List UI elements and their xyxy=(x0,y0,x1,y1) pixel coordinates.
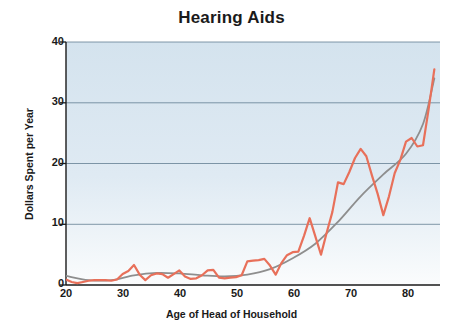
chart-container: Hearing Aids Dollars Spent per Year Age … xyxy=(0,0,463,332)
axis-ticks xyxy=(60,42,66,285)
plot-area xyxy=(0,0,463,332)
